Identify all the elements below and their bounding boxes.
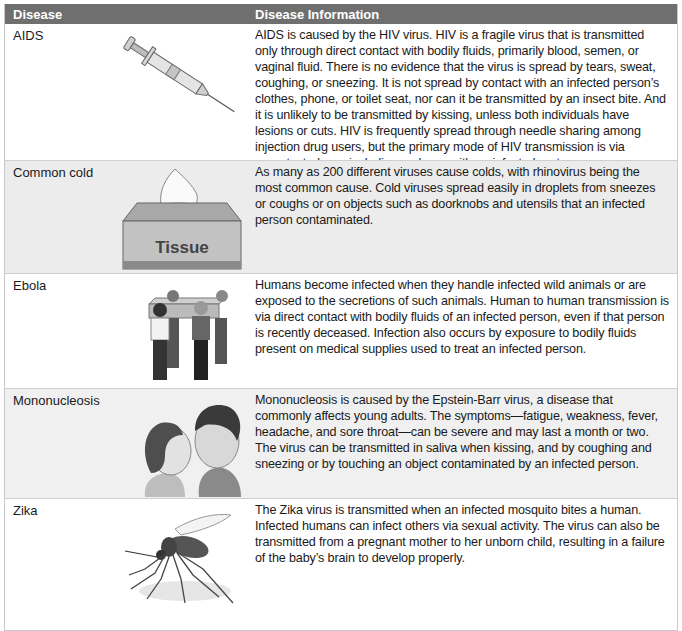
disease-name: Mononucleosis: [5, 389, 115, 498]
disease-info: AIDS is caused by the HIV virus. HIV is …: [252, 24, 677, 160]
table-row: Common cold Tissue As many as 200 differ…: [5, 160, 677, 273]
table-row: AIDS AIDS is caused by the HIV virus. HI…: [5, 24, 677, 160]
table-header: Disease Disease Information: [5, 4, 677, 24]
disease-name: Zika: [5, 499, 115, 630]
tissue-label: Tissue: [155, 238, 209, 257]
syringe-image: [115, 24, 252, 160]
disease-name: Common cold: [5, 161, 115, 273]
table-row: Mononucleosis Mononucleosis is caused by…: [5, 388, 677, 498]
people-carrying-coffin-image: [115, 274, 252, 388]
disease-table: Disease Disease Information AIDS AIDS is…: [4, 4, 678, 631]
disease-name: AIDS: [5, 24, 115, 160]
header-disease: Disease: [5, 7, 252, 22]
disease-name: Ebola: [5, 274, 115, 388]
couple-kissing-image: [115, 389, 252, 498]
disease-info: As many as 200 different viruses cause c…: [252, 161, 677, 273]
disease-info: Humans become infected when they handle …: [252, 274, 677, 388]
table-row: Ebola Hu: [5, 273, 677, 388]
header-disease-information: Disease Information: [252, 7, 677, 22]
disease-info: The Zika virus is transmitted when an in…: [252, 499, 677, 630]
tissue-box-image: Tissue: [115, 161, 252, 273]
mosquito-image: [115, 499, 252, 630]
disease-info: Mononucleosis is caused by the Epstein-B…: [252, 389, 677, 498]
table-row: Zika The Zika virus is transmitted: [5, 498, 677, 630]
